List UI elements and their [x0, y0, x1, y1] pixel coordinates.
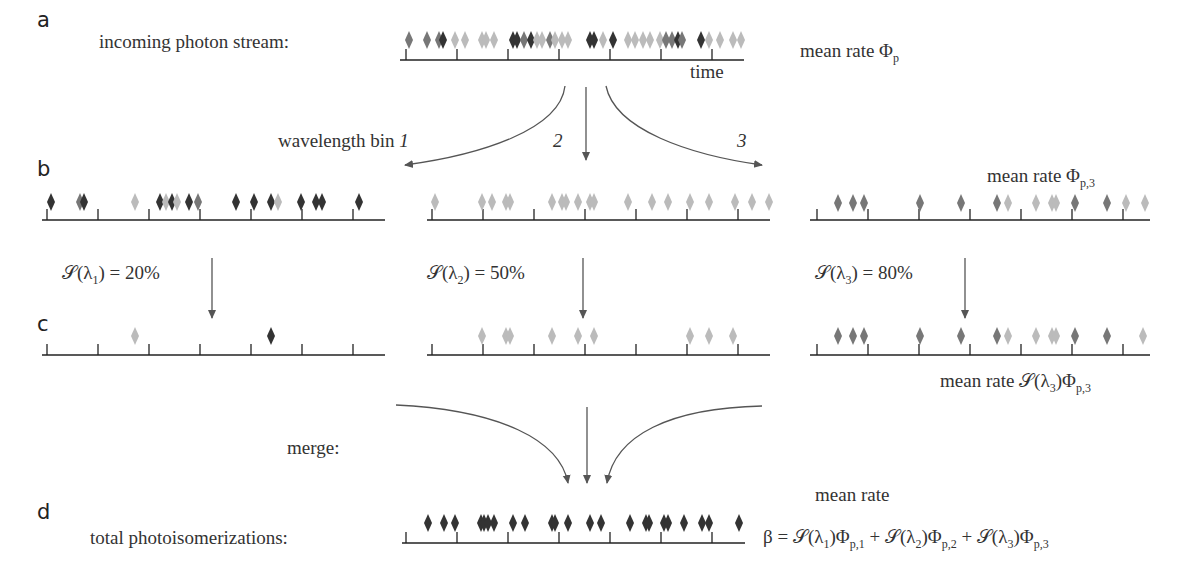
arrow-to-bin-3: [606, 86, 762, 165]
merge-arrow-3: [607, 406, 762, 483]
timeline-axes: [42, 49, 1150, 543]
sensitivity-arrows: [212, 258, 965, 318]
merge-arrows: [396, 405, 762, 483]
merge-arrow-1: [396, 405, 568, 483]
arrow-to-bin-1: [405, 86, 565, 165]
diagram-graphics: [0, 0, 1183, 575]
split-arrows: [405, 86, 762, 165]
